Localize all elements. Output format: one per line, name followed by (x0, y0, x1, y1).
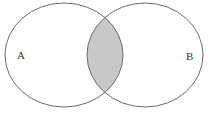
set-a-label: A (17, 49, 25, 61)
set-b-label: B (186, 50, 193, 62)
venn-diagram: A B (0, 0, 209, 118)
